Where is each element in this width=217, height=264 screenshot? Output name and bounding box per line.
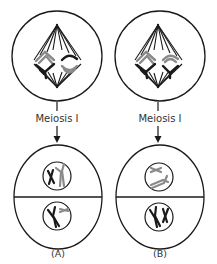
chromosome-grey-small	[60, 209, 68, 212]
nucleus-lower	[145, 203, 173, 231]
panel-label-b: (B)	[153, 248, 167, 259]
panel-label-a: (A)	[51, 248, 65, 259]
chromosome-grey-small-x	[151, 168, 161, 172]
centrosome-top	[56, 24, 58, 26]
chromosome-black-lower-left	[36, 64, 54, 78]
panel-b-parent-cell	[115, 11, 205, 101]
chromosome-grey-bent	[56, 164, 64, 186]
centrosome-bottom	[56, 86, 58, 88]
nucleus-upper	[43, 162, 71, 190]
centrosome-top	[157, 24, 159, 26]
chromosome-black-x	[163, 209, 168, 222]
panel-a-daughter-cells	[14, 145, 102, 249]
chromosome-black-upper-right	[62, 56, 77, 60]
cell-membrane	[115, 11, 205, 101]
chromosome-black-x	[48, 170, 54, 184]
down-arrow-icon	[54, 136, 61, 143]
stage-label: Meiosis I	[35, 113, 78, 124]
panel-b: Meiosis I	[115, 11, 205, 259]
down-arrow-icon	[155, 136, 162, 143]
panel-a: Meiosis I	[12, 11, 102, 259]
chromosome-black-bent	[48, 207, 59, 227]
chromosome-grey-lower-right	[62, 66, 77, 73]
nucleus-lower	[43, 202, 71, 230]
chromosome-black-lower-left	[137, 64, 155, 78]
panel-b-daughter-cells	[116, 145, 204, 249]
panel-a-parent-cell	[12, 11, 102, 101]
centrosome-bottom	[157, 86, 159, 88]
stage-label: Meiosis I	[138, 113, 181, 124]
chromosome-black-bent	[150, 207, 160, 227]
meiosis-diagram: Meiosis I	[0, 0, 217, 264]
chromosome-grey-bent	[151, 176, 168, 188]
nucleus-upper	[145, 163, 173, 191]
chromosome-grey-upper-right	[163, 56, 178, 62]
